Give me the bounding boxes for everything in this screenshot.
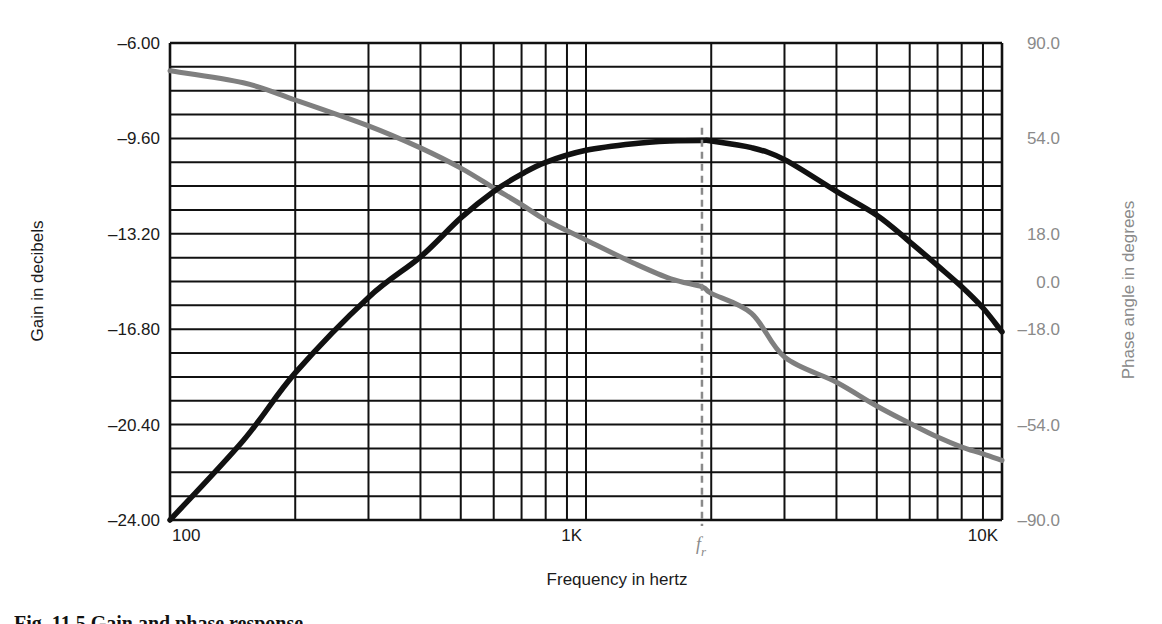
right-axis-tick-label: –18.0 bbox=[1017, 320, 1060, 339]
x-axis-tick-label: 1K bbox=[561, 526, 582, 545]
right-axis-tick-label: 90.0 bbox=[1027, 34, 1060, 53]
bode-plot-chart: fr –6.00–9.60–13.20–16.80–20.40–24.00 90… bbox=[0, 0, 1162, 624]
left-axis-tick-label: –13.20 bbox=[108, 225, 160, 244]
left-axis-tick-label: –20.40 bbox=[108, 416, 160, 435]
right-axis-tick-label: 0.0 bbox=[1036, 273, 1060, 292]
left-axis-tick-label: –24.00 bbox=[108, 511, 160, 530]
x-axis-ticks: 1001K10K bbox=[172, 526, 999, 545]
right-axis-ticks: 90.054.018.00.0–18.0–54.0–90.0 bbox=[1017, 34, 1060, 530]
right-axis-tick-label: 54.0 bbox=[1027, 129, 1060, 148]
figure-caption: Fig. 11.5 Gain and phase response bbox=[14, 612, 303, 624]
x-axis-tick-label: 100 bbox=[172, 526, 200, 545]
chart-canvas: fr –6.00–9.60–13.20–16.80–20.40–24.00 90… bbox=[0, 0, 1162, 624]
x-axis-title: Frequency in hertz bbox=[547, 570, 688, 589]
annotations: fr bbox=[696, 128, 707, 559]
left-axis-title: Gain in decibels bbox=[28, 221, 47, 342]
right-axis-title: Phase angle in degrees bbox=[1119, 201, 1138, 380]
left-axis-tick-label: –16.80 bbox=[108, 320, 160, 339]
left-axis-tick-label: –6.00 bbox=[117, 34, 160, 53]
right-axis-tick-label: –90.0 bbox=[1017, 511, 1060, 530]
right-axis-tick-label: 18.0 bbox=[1027, 225, 1060, 244]
resonant-frequency-label: fr bbox=[696, 534, 707, 559]
x-axis-tick-label: 10K bbox=[968, 526, 999, 545]
left-axis-ticks: –6.00–9.60–13.20–16.80–20.40–24.00 bbox=[108, 34, 160, 530]
left-axis-tick-label: –9.60 bbox=[117, 129, 160, 148]
right-axis-tick-label: –54.0 bbox=[1017, 416, 1060, 435]
grid bbox=[170, 43, 1002, 520]
